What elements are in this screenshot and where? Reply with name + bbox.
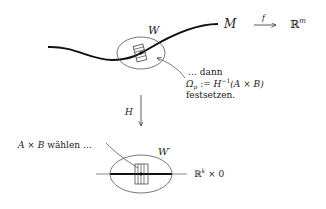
- point-image: [140, 173, 143, 176]
- label-M: M: [223, 17, 237, 31]
- label-f: f: [261, 13, 267, 22]
- annotation-festsetzen: festsetzen.: [186, 90, 235, 100]
- annotation-dann: … dann: [188, 67, 223, 77]
- annotation-choose-AxB: A × B wählen …: [17, 140, 92, 150]
- manifold-curve: [48, 24, 218, 60]
- label-Rm: ℝm: [290, 17, 306, 31]
- annotation-omega-def: Ωp := H−1(A × B): [185, 77, 264, 91]
- point-p: [140, 52, 143, 55]
- callout-arrow-top: [157, 58, 185, 78]
- diagram-canvas: W M f ℝm … dann Ωp := H−1(A × B) festset…: [0, 0, 326, 209]
- label-W-prime: W′: [158, 146, 171, 157]
- label-Rk-times-0: ℝk × 0: [194, 167, 224, 179]
- label-H: H: [124, 107, 133, 117]
- label-W: W: [148, 24, 161, 37]
